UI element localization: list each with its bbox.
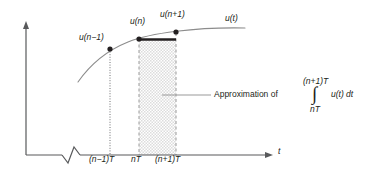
x-tick-label-n-plus-1-T: (n+1)T xyxy=(155,155,180,164)
integral-integrand-text: u(t) dt xyxy=(331,89,353,99)
x-axis-label: t xyxy=(278,147,280,156)
integral-symbol: ∫ xyxy=(312,84,317,103)
x-tick-label-n-minus-1-T-text: (n−1)T xyxy=(89,154,114,164)
label-curve-u-of-t: u(t) xyxy=(225,14,238,23)
sample-point-u-n-minus-1 xyxy=(107,46,112,51)
sample-point-u-n-plus-1 xyxy=(173,29,178,34)
label-u-n-minus-1-text: u(n−1) xyxy=(79,32,104,42)
label-curve-u-of-t-text: u(t) xyxy=(225,13,238,23)
x-tick-label-n-plus-1-T-text: (n+1)T xyxy=(155,154,180,164)
integral-integrand: u(t) dt xyxy=(331,90,353,99)
label-u-n: u(n) xyxy=(130,17,145,26)
label-u-n-minus-1: u(n−1) xyxy=(79,33,104,42)
x-tick-label-nT: nT xyxy=(131,155,141,164)
figure-canvas: u(n−1) u(n) u(n+1) u(t) (n−1)T nT (n+1)T… xyxy=(0,0,383,170)
label-u-n-plus-1: u(n+1) xyxy=(160,10,185,19)
integral-lower-limit-text: nT xyxy=(310,104,320,114)
shaded-approximation-region xyxy=(139,39,176,155)
label-u-n-text: u(n) xyxy=(130,16,145,26)
annotation-leader-text: Approximation of xyxy=(214,90,278,99)
label-u-n-plus-1-text: u(n+1) xyxy=(160,9,185,19)
sample-point-u-n xyxy=(136,36,141,41)
x-tick-label-n-minus-1-T: (n−1)T xyxy=(89,155,114,164)
x-axis-break-symbol xyxy=(62,147,80,163)
x-axis-arrowhead xyxy=(265,152,273,158)
y-axis-arrowhead xyxy=(23,21,29,29)
integral-lower-limit: nT xyxy=(310,105,320,114)
x-tick-label-nT-text: nT xyxy=(131,154,141,164)
